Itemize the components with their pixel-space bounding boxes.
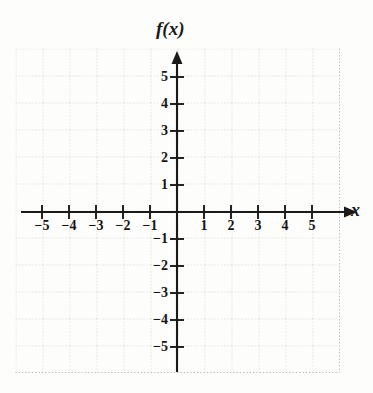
x-tick-label: 1 [194,218,214,234]
y-tick-label: 4 [148,96,168,112]
y-tick-label: −5 [140,339,168,355]
y-tick-label: −3 [140,285,168,301]
coordinate-plane [0,0,373,393]
x-tick-label: −2 [109,218,137,234]
graph-figure: f(x) x −5 −4 −3 −2 −1 1 2 3 4 5 5 4 3 2 … [0,0,373,393]
x-tick-label: 4 [275,218,295,234]
y-tick-label: −4 [140,312,168,328]
x-axis-label: x [351,200,360,221]
y-tick-label: 3 [148,123,168,139]
y-axis-label: f(x) [156,18,184,40]
x-tick-label: 2 [221,218,241,234]
x-tick-label: 5 [302,218,322,234]
y-tick-label: 5 [148,69,168,85]
x-tick-label: −4 [55,218,83,234]
y-tick-label: 1 [148,177,168,193]
x-tick-label: 3 [248,218,268,234]
x-tick-label: −5 [28,218,56,234]
x-tick-label: −3 [82,218,110,234]
y-tick-label: 2 [148,150,168,166]
y-tick-label: −1 [140,231,168,247]
y-tick-label: −2 [140,258,168,274]
